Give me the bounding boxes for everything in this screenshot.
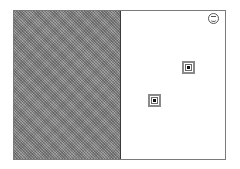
target-square-2[interactable]	[148, 94, 161, 107]
game-board	[13, 10, 226, 160]
white-panel[interactable]	[121, 11, 225, 159]
smiley-icon[interactable]	[208, 13, 219, 24]
target-square-1[interactable]	[182, 61, 195, 74]
target-center-dot	[153, 99, 156, 102]
target-center-dot	[187, 66, 190, 69]
dithered-gray-panel	[14, 11, 121, 159]
